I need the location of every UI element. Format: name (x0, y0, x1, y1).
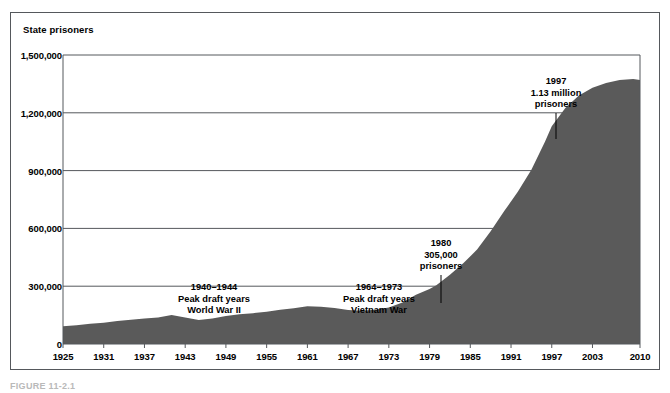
annotation-line: prisoners (420, 261, 462, 273)
x-axis-ticks (63, 344, 640, 348)
x-tick-label: 1973 (378, 351, 399, 362)
annotation-line: Peak draft years (178, 294, 250, 306)
y-tick-label: 0 (0, 339, 62, 350)
figure-root: State prisoners 0300,000600,000900,0001,… (0, 0, 670, 393)
annotation-line: 1940–1944 (178, 282, 250, 294)
annotation-y1980: 1980305,000prisoners (420, 238, 462, 273)
x-tick-label: 1949 (216, 351, 237, 362)
y-tick-label: 900,000 (0, 165, 62, 176)
annotation-line: 1997 (531, 76, 582, 88)
y-tick-label: 600,000 (0, 223, 62, 234)
annotation-line: 305,000 (420, 250, 462, 262)
annotation-line: 1980 (420, 238, 462, 250)
y-tick-label: 1,500,000 (0, 50, 62, 61)
annotation-wwii: 1940–1944Peak draft yearsWorld War II (178, 282, 250, 317)
annotation-y1997: 19971.13 millionprisoners (531, 76, 582, 111)
y-tick-label: 300,000 (0, 281, 62, 292)
x-tick-label: 1985 (460, 351, 481, 362)
y-tick-label: 1,200,000 (0, 107, 62, 118)
annotation-vietnam: 1964–1973Peak draft yearsVietnam War (343, 282, 415, 317)
figure-caption: FIGURE 11-2.1 (10, 381, 310, 393)
annotation-line: World War II (178, 305, 250, 317)
x-tick-label: 1943 (175, 351, 196, 362)
x-tick-label: 1967 (338, 351, 359, 362)
x-tick-label: 1979 (419, 351, 440, 362)
annotation-line: Peak draft years (343, 294, 415, 306)
annotation-line: prisoners (531, 99, 582, 111)
x-tick-label: 2003 (582, 351, 603, 362)
x-tick-label: 1991 (501, 351, 522, 362)
annotation-line: 1964–1973 (343, 282, 415, 294)
annotation-line: Vietnam War (343, 305, 415, 317)
area-chart-plot (0, 0, 670, 393)
x-tick-label: 1931 (93, 351, 114, 362)
x-tick-label: 1961 (297, 351, 318, 362)
annotation-line: 1.13 million (531, 88, 582, 100)
x-tick-label: 1937 (134, 351, 155, 362)
figure-caption-text: FIGURE 11-2.1 (10, 381, 310, 391)
x-tick-label: 1925 (53, 351, 74, 362)
x-tick-label: 1997 (541, 351, 562, 362)
x-tick-label: 1955 (256, 351, 277, 362)
x-tick-label: 2010 (630, 351, 651, 362)
